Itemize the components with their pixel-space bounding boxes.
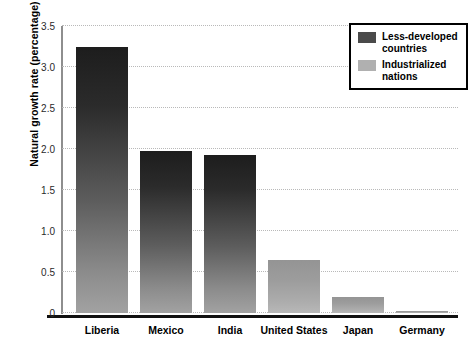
bar-slot: United States — [268, 26, 320, 313]
legend: Less-developed countries Industrialized … — [349, 23, 468, 90]
x-axis-baseline — [47, 315, 458, 318]
y-axis-tick-label: 1.0 — [41, 226, 55, 237]
y-axis-tick-label: 3.0 — [41, 62, 55, 73]
bar[interactable] — [268, 260, 320, 313]
bar-chart: Natural growth rate (percentage) 00.51.0… — [0, 0, 473, 362]
legend-item: Industrialized nations — [358, 59, 458, 82]
x-axis-category-label: Germany — [380, 324, 464, 337]
bar-slot: India — [204, 26, 256, 313]
y-axis-tick-label: 0 — [49, 308, 55, 319]
y-axis-title: Natural growth rate (percentage) — [28, 0, 40, 214]
legend-label: Less-developed countries — [382, 31, 458, 54]
y-axis-tick-label: 1.5 — [41, 185, 55, 196]
bar-slot: Liberia — [76, 26, 128, 313]
legend-swatch-industrialized-icon — [358, 60, 376, 71]
bar[interactable] — [76, 47, 128, 314]
legend-item: Less-developed countries — [358, 31, 458, 54]
bar-slot: Mexico — [140, 26, 192, 313]
legend-swatch-less-developed-icon — [358, 32, 376, 43]
bar[interactable] — [396, 311, 448, 313]
bar[interactable] — [332, 297, 384, 313]
bar[interactable] — [204, 155, 256, 313]
bar[interactable] — [140, 151, 192, 313]
y-axis-tick-label: 3.5 — [41, 21, 55, 32]
y-axis-tick-label: 2.0 — [41, 144, 55, 155]
y-axis-tick-label: 2.5 — [41, 103, 55, 114]
y-axis-tick-label: 0.5 — [41, 267, 55, 278]
legend-label: Industrialized nations — [382, 59, 446, 82]
